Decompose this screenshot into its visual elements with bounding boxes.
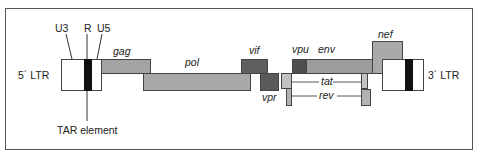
gag-label: gag: [113, 46, 131, 57]
ltr3-label: 3´ LTR: [428, 70, 459, 81]
ltr3-r-region: [405, 59, 413, 91]
env-gene: [306, 59, 373, 74]
tat-exon1: [281, 73, 292, 89]
nef-label: nef: [378, 29, 393, 40]
tat-label: tat: [321, 76, 333, 87]
vif-gene: [241, 59, 268, 74]
ltr5-box: [61, 59, 102, 91]
rev-exon1: [286, 88, 292, 106]
rev-exon2: [361, 89, 371, 106]
u3-label: U3: [55, 23, 68, 34]
pol-gene: [143, 73, 251, 91]
ltr5-label: 5´ LTR: [18, 70, 49, 81]
ltr5-r-region: [84, 59, 92, 91]
vpr-gene: [260, 73, 279, 91]
tar-label: TAR element: [57, 125, 118, 136]
vpr-label: vpr: [262, 92, 277, 103]
u3-pointer-line: [66, 34, 72, 59]
pol-label: pol: [185, 57, 199, 68]
vpu-gene: [292, 59, 307, 74]
vif-label: vif: [249, 45, 260, 56]
env-label: env: [318, 44, 335, 55]
tat-exon2: [361, 73, 368, 89]
u5-pointer-line: [97, 34, 102, 59]
ltr3-box: [382, 59, 424, 91]
rev-label: rev: [319, 90, 334, 101]
gag-gene: [101, 59, 151, 74]
vpu-label: vpu: [292, 44, 309, 55]
u5-label: U5: [97, 23, 110, 34]
r-label: R: [84, 23, 92, 34]
